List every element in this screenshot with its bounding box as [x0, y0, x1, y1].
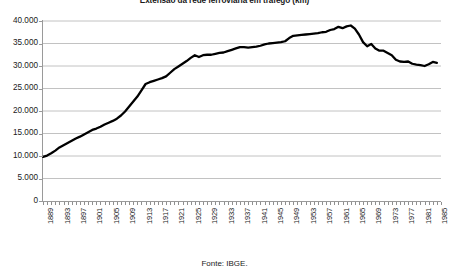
x-tick-label: 1893: [63, 208, 72, 224]
x-tick-mark: [343, 202, 344, 205]
x-tick-mark: [236, 202, 237, 205]
x-tick-mark: [84, 202, 85, 205]
x-tick-label: 1897: [79, 208, 88, 224]
x-tick-mark: [195, 202, 196, 205]
x-tick-mark: [191, 202, 192, 205]
x-tick-mark: [392, 202, 393, 205]
x-tick-mark: [310, 202, 311, 205]
x-tick-mark: [256, 202, 257, 205]
x-tick-mark: [326, 202, 327, 205]
y-tick-label: 30.000: [2, 61, 38, 70]
x-tick-mark: [68, 202, 69, 205]
x-tick-mark: [355, 202, 356, 205]
y-axis-labels: 40.00035.00030.00025.00020.00015.00010.0…: [0, 0, 38, 274]
x-tick-mark: [141, 202, 142, 205]
x-tick-mark: [88, 202, 89, 205]
x-tick-label: 1929: [210, 208, 219, 224]
x-tick-mark: [408, 202, 409, 205]
chart-figure: Extensão da rede ferroviária em tráfego …: [0, 0, 449, 274]
plot-area: [43, 21, 441, 201]
x-tick-mark: [429, 202, 430, 205]
x-tick-label: 1973: [391, 208, 400, 224]
chart-title: Extensão da rede ferroviária em tráfego …: [0, 0, 449, 5]
x-tick-label: 1985: [440, 208, 449, 224]
x-tick-mark: [55, 202, 56, 205]
x-tick-mark: [232, 202, 233, 205]
x-tick-mark: [367, 202, 368, 205]
y-tick-mark: [39, 89, 43, 90]
x-tick-mark: [330, 202, 331, 205]
x-tick-mark: [293, 202, 294, 205]
x-tick-mark: [150, 202, 151, 205]
x-tick-mark: [207, 202, 208, 205]
y-tick-label: 35.000: [2, 38, 38, 47]
x-tick-mark: [351, 202, 352, 205]
x-tick-mark: [269, 202, 270, 205]
x-tick-mark: [224, 202, 225, 205]
x-tick-label: 1953: [309, 208, 318, 224]
x-tick-mark: [215, 202, 216, 205]
x-tick-mark: [396, 202, 397, 205]
x-tick-label: 1933: [227, 208, 236, 224]
x-tick-mark: [297, 202, 298, 205]
x-tick-mark: [125, 202, 126, 205]
x-tick-mark: [129, 202, 130, 205]
x-tick-mark: [183, 202, 184, 205]
x-tick-mark: [244, 202, 245, 205]
x-tick-mark: [80, 202, 81, 205]
y-tick-label: 5.000: [2, 173, 38, 182]
x-tick-mark: [347, 202, 348, 205]
x-tick-mark: [420, 202, 421, 205]
x-tick-mark: [301, 202, 302, 205]
x-tick-mark: [178, 202, 179, 205]
x-tick-mark: [375, 202, 376, 205]
y-tick-mark: [39, 201, 43, 202]
x-tick-mark: [404, 202, 405, 205]
x-tick-mark: [121, 202, 122, 205]
x-tick-label: 1981: [424, 208, 433, 224]
y-tick-label: 20.000: [2, 106, 38, 115]
x-tick-mark: [203, 202, 204, 205]
x-tick-label: 1925: [194, 208, 203, 224]
x-tick-mark: [174, 202, 175, 205]
x-tick-mark: [273, 202, 274, 205]
x-tick-mark: [92, 202, 93, 205]
x-tick-mark: [359, 202, 360, 205]
x-tick-mark: [322, 202, 323, 205]
x-tick-label: 1905: [112, 208, 121, 224]
x-tick-mark: [146, 202, 147, 205]
x-tick-mark: [240, 202, 241, 205]
x-tick-mark: [379, 202, 380, 205]
x-tick-mark: [277, 202, 278, 205]
x-tick-mark: [219, 202, 220, 205]
x-tick-mark: [400, 202, 401, 205]
y-tick-mark: [39, 111, 43, 112]
x-tick-mark: [334, 202, 335, 205]
series-path: [43, 26, 437, 157]
x-tick-mark: [252, 202, 253, 205]
x-tick-label: 1917: [161, 208, 170, 224]
x-tick-mark: [306, 202, 307, 205]
y-tick-mark: [39, 134, 43, 135]
x-tick-mark: [289, 202, 290, 205]
x-tick-label: 1901: [95, 208, 104, 224]
x-tick-label: 1969: [374, 208, 383, 224]
x-tick-mark: [199, 202, 200, 205]
x-tick-mark: [109, 202, 110, 205]
x-tick-mark: [433, 202, 434, 205]
x-tick-mark: [363, 202, 364, 205]
x-tick-mark: [137, 202, 138, 205]
x-tick-label: 1949: [292, 208, 301, 224]
x-tick-mark: [154, 202, 155, 205]
y-tick-label: 40.000: [2, 16, 38, 25]
x-tick-mark: [59, 202, 60, 205]
x-tick-mark: [47, 202, 48, 205]
x-tick-label: 1913: [145, 208, 154, 224]
x-tick-mark: [412, 202, 413, 205]
x-tick-mark: [318, 202, 319, 205]
x-tick-label: 1909: [128, 208, 137, 224]
x-tick-label: 1889: [46, 208, 55, 224]
y-tick-label: 10.000: [2, 151, 38, 160]
x-tick-mark: [437, 202, 438, 205]
x-tick-mark: [170, 202, 171, 205]
